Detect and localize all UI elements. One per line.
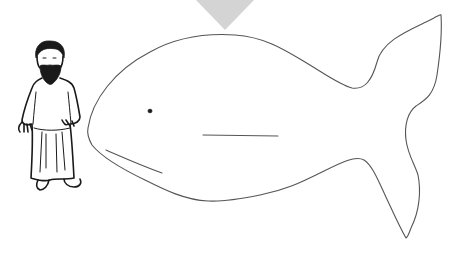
man-sleeve-right <box>68 92 71 124</box>
man-figure <box>19 41 81 190</box>
man-right-foot <box>64 179 81 187</box>
man-beard <box>40 65 61 84</box>
man-left-foot <box>37 180 49 190</box>
man-hair <box>36 41 65 58</box>
man-robe <box>22 78 80 181</box>
drop-marker-triangle <box>196 0 254 30</box>
whale-eye <box>148 109 152 113</box>
man-belt <box>34 128 70 130</box>
man-left-hand <box>19 122 32 132</box>
man-robe-folds <box>40 132 65 172</box>
man-right-hand <box>62 120 74 126</box>
whale-body-outline <box>88 15 442 238</box>
whale-lateral-line <box>203 135 278 136</box>
whale <box>88 15 442 238</box>
illustration-canvas <box>0 0 452 254</box>
man-sleeve-left <box>33 92 36 124</box>
whale-mouth <box>106 150 162 173</box>
